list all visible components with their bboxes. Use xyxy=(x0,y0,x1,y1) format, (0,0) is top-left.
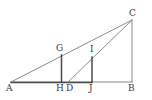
geometry-diagram: A B C G H D I J xyxy=(0,0,152,100)
vertex-label-H: H xyxy=(56,84,64,93)
vertex-label-J: J xyxy=(89,84,93,93)
vertex-label-A: A xyxy=(6,84,13,93)
segment-AC xyxy=(11,20,132,82)
vertex-label-G: G xyxy=(56,44,63,53)
vertex-label-B: B xyxy=(128,84,135,93)
segment-DC xyxy=(68,20,132,82)
vertex-label-D: D xyxy=(66,84,73,93)
vertex-label-I: I xyxy=(90,45,94,54)
vertex-label-C: C xyxy=(129,9,136,18)
